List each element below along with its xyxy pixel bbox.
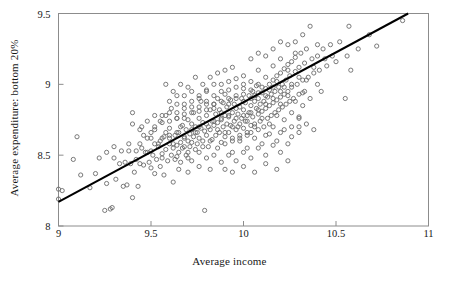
y-tick-label: 8 — [18, 221, 51, 232]
x-tick-label: 10.5 — [327, 228, 345, 239]
x-axis-title: Average income — [0, 255, 459, 267]
scatter-chart-figure: Average income Average expenditure: bott… — [0, 0, 459, 283]
plot-canvas — [0, 0, 459, 283]
y-axis-title: Average expenditure: bottom 20% — [8, 18, 20, 218]
x-tick-label: 9 — [56, 228, 61, 239]
y-tick-label: 9 — [18, 79, 51, 90]
y-tick-label: 8.5 — [18, 150, 51, 161]
x-tick-label: 10 — [238, 228, 249, 239]
y-tick-label: 9.5 — [18, 8, 51, 19]
x-tick-label: 9.5 — [144, 228, 157, 239]
x-tick-label: 11 — [423, 228, 433, 239]
